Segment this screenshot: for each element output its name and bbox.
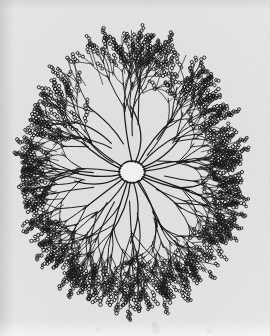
terminal-bead xyxy=(225,258,228,261)
terminal-bead xyxy=(26,131,29,134)
terminal-bead xyxy=(163,71,166,74)
terminal-bead xyxy=(212,143,215,146)
terminal-bead xyxy=(176,60,179,63)
terminal-bead xyxy=(40,232,44,236)
terminal-bead xyxy=(148,37,151,40)
terminal-bead xyxy=(27,126,30,129)
terminal-bead xyxy=(217,87,221,91)
terminal-bead xyxy=(168,301,172,305)
terminal-bead xyxy=(235,239,238,242)
terminal-bead xyxy=(203,241,206,244)
terminal-bead xyxy=(166,66,169,69)
terminal-bead xyxy=(91,301,94,304)
terminal-bead xyxy=(215,137,218,140)
terminal-bead xyxy=(203,56,206,59)
terminal-bead xyxy=(193,279,196,282)
terminal-bead xyxy=(38,100,42,104)
terminal-bead xyxy=(212,256,216,260)
terminal-bead xyxy=(195,76,198,79)
terminal-bead xyxy=(41,87,44,90)
terminal-bead xyxy=(171,44,174,47)
terminal-bead xyxy=(195,282,198,285)
terminal-bead xyxy=(35,171,38,174)
terminal-bead xyxy=(21,161,24,164)
terminal-bead xyxy=(147,270,150,273)
terminal-bead xyxy=(58,84,61,87)
terminal-bead xyxy=(86,98,89,101)
terminal-bead xyxy=(49,91,52,94)
terminal-bead xyxy=(98,276,101,279)
terminal-bead xyxy=(63,272,66,275)
terminal-bead xyxy=(203,190,206,193)
terminal-bead xyxy=(119,305,122,308)
terminal-bead xyxy=(47,235,50,238)
terminal-bead xyxy=(246,136,249,139)
terminal-bead xyxy=(188,289,191,292)
terminal-bead xyxy=(43,111,46,114)
terminal-bead xyxy=(127,45,130,48)
terminal-bead xyxy=(41,266,44,269)
terminal-bead xyxy=(175,57,178,60)
terminal-bead xyxy=(203,254,206,257)
terminal-bead xyxy=(34,235,37,238)
terminal-bead xyxy=(172,295,175,298)
terminal-bead xyxy=(188,67,191,70)
terminal-bead xyxy=(30,239,33,242)
terminal-bead xyxy=(82,55,85,58)
terminal-bead xyxy=(98,299,101,302)
terminal-bead xyxy=(112,53,115,56)
branch-segment xyxy=(71,206,86,234)
terminal-bead xyxy=(119,60,122,63)
arbor-illustration xyxy=(0,0,270,336)
terminal-bead xyxy=(141,24,144,27)
terminal-bead xyxy=(237,108,240,111)
terminal-bead xyxy=(198,108,201,111)
terminal-bead xyxy=(102,27,105,30)
terminal-bead xyxy=(96,62,99,65)
terminal-bead xyxy=(174,288,177,291)
terminal-bead xyxy=(47,116,50,119)
terminal-bead xyxy=(148,80,151,83)
terminal-bead xyxy=(227,122,230,125)
terminal-bead xyxy=(178,81,181,84)
branch-segment xyxy=(224,173,237,177)
terminal-bead xyxy=(105,52,108,55)
terminal-bead xyxy=(106,301,109,304)
terminal-bead xyxy=(84,269,87,272)
terminal-bead xyxy=(247,146,250,149)
terminal-bead xyxy=(223,134,226,137)
terminal-bead xyxy=(77,90,80,93)
terminal-bead xyxy=(206,256,209,259)
terminal-bead xyxy=(101,67,104,70)
terminal-bead xyxy=(173,275,176,278)
terminal-bead xyxy=(78,54,81,57)
terminal-bead xyxy=(147,308,150,311)
terminal-bead xyxy=(70,111,73,114)
terminal-bead xyxy=(202,103,205,106)
terminal-bead xyxy=(182,276,185,279)
terminal-bead xyxy=(43,181,47,185)
terminal-bead xyxy=(240,170,243,173)
terminal-bead xyxy=(200,61,203,64)
terminal-bead xyxy=(198,246,201,249)
terminal-bead xyxy=(61,266,65,270)
soma-fill xyxy=(121,163,144,182)
terminal-bead xyxy=(75,86,78,89)
terminal-bead xyxy=(49,108,52,111)
terminal-bead xyxy=(75,128,78,131)
branch-segment xyxy=(205,141,212,146)
terminal-bead xyxy=(86,48,89,51)
terminal-bead xyxy=(48,65,51,68)
soma-hub xyxy=(119,161,145,183)
terminal-bead xyxy=(247,198,250,201)
terminal-bead xyxy=(172,63,175,66)
terminal-bead xyxy=(88,37,91,40)
terminal-bead xyxy=(73,248,76,251)
terminal-bead xyxy=(77,292,80,295)
terminal-bead xyxy=(47,87,50,90)
terminal-bead xyxy=(99,303,103,307)
branch-segment xyxy=(130,201,134,255)
terminal-bead xyxy=(24,129,27,132)
terminal-bead xyxy=(85,35,88,38)
terminal-bead xyxy=(26,210,29,213)
